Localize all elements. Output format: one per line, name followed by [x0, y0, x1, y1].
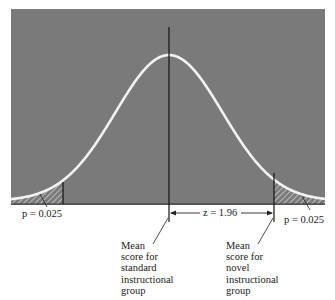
left-tail-label: p = 0.025 [22, 208, 62, 219]
right-tail-label: p = 0.025 [284, 214, 324, 225]
gray-panel [11, 9, 325, 205]
standard-mean-label: Mean score for standard instructional gr… [121, 240, 174, 296]
z-arrowhead-left [170, 211, 176, 216]
novel-mean-label: Mean score for novel instructional group [226, 240, 279, 296]
z-distance-label: z = 1.96 [203, 207, 237, 218]
z-arrowhead-right [267, 211, 273, 216]
